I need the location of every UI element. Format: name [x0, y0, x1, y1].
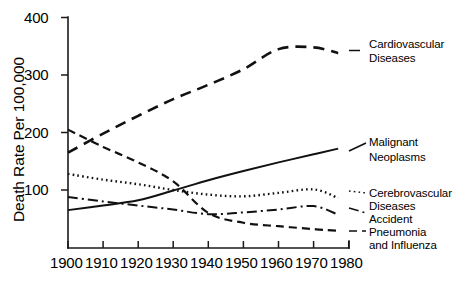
x-tick-label-1970: 1970 — [295, 255, 328, 270]
x-tick-marks — [68, 241, 349, 248]
series-label-cardiovascular-line2: Diseases — [369, 52, 416, 65]
y-tick-label-400: 400 — [24, 10, 48, 25]
series-line-cerebrovascular-diseases — [68, 174, 338, 198]
leader-malignant — [349, 143, 366, 151]
series-label-pneumonia-line1: Pneumonia — [369, 226, 426, 239]
series-group — [68, 47, 338, 231]
leader-accident — [349, 208, 366, 213]
series-label-cerebrovascular-line1: Cerebrovascular — [369, 187, 452, 200]
series-label-malignant-line1: Malignant — [369, 136, 418, 149]
series-line-cardiovascular-diseases — [68, 47, 338, 153]
line-chart: Death Rate Per 100,000 400 300 200 100 1… — [0, 0, 470, 286]
x-tick-label-1940: 1940 — [190, 255, 223, 270]
x-tick-label-1950: 1950 — [225, 255, 258, 270]
x-tick-label-1900: 1900 — [50, 255, 83, 270]
series-line-malignant-neoplasms — [68, 149, 338, 211]
series-label-accident: Accident — [369, 213, 412, 226]
series-line-pneumonia-and-influenza — [68, 130, 338, 231]
x-tick-label-1930: 1930 — [155, 255, 188, 270]
x-tick-label-1910: 1910 — [85, 255, 118, 270]
leader-cerebrovascular — [349, 191, 366, 193]
x-tick-label-1960: 1960 — [260, 255, 293, 270]
label-leader-lines — [349, 51, 366, 232]
y-tick-label-200: 200 — [24, 125, 48, 140]
y-tick-label-100: 100 — [24, 182, 48, 197]
series-label-cerebrovascular-line2: Diseases — [369, 200, 416, 213]
y-tick-label-300: 300 — [24, 67, 48, 82]
y-tick-marks — [61, 18, 68, 191]
series-label-cardiovascular-line1: Cardiovascular — [369, 38, 444, 51]
series-label-malignant-line2: Neoplasms — [369, 151, 426, 164]
x-tick-label-1980: 1980 — [330, 255, 363, 270]
series-label-pneumonia-line2: and Influenza — [369, 239, 437, 252]
x-tick-label-1920: 1920 — [120, 255, 153, 270]
